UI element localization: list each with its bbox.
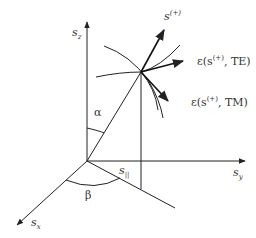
s-plus-label: s(+) — [164, 10, 181, 22]
te-label: ε(s(+), TE) — [197, 55, 251, 67]
diagram-canvas: sz sy sx s(+) ε(s(+), TE) ε(s(+), TM) α … — [0, 0, 256, 238]
z-axis-label: sz — [72, 27, 81, 41]
alpha-arc — [87, 128, 104, 133]
te-vector — [141, 61, 183, 72]
coordinate-diagram — [0, 0, 256, 238]
beta-label: β — [85, 190, 91, 201]
tm-curve — [141, 72, 158, 110]
y-axis-label: sy — [233, 167, 243, 181]
x-axis-label: sx — [31, 217, 41, 231]
s-plus-vector — [141, 30, 164, 72]
s-parallel-label: s|| — [119, 165, 129, 179]
tm-label: ε(s(+), TM) — [191, 96, 248, 108]
sphere-arc-inner — [96, 45, 180, 77]
beta-arc — [66, 178, 120, 186]
sphere-arc-outer — [104, 46, 163, 118]
x-axis — [17, 161, 87, 225]
alpha-label: α — [94, 107, 101, 118]
